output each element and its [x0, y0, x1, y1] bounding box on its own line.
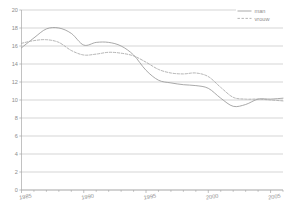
y-tick-label-16: 16	[12, 43, 18, 49]
y-tick-label-12: 12	[12, 79, 18, 85]
x-tick-label-2000: 2000	[206, 193, 219, 201]
y-tick-label-8: 8	[15, 115, 18, 121]
y-tick-label-0: 0	[15, 187, 18, 193]
y-tick-label-6: 6	[15, 133, 18, 139]
y-tick-label-10: 10	[12, 97, 18, 103]
y-tick-labels: 02468101214161820	[12, 7, 18, 193]
legend-label-man: man	[255, 8, 266, 14]
series-line-man	[22, 28, 284, 107]
y-tick-label-18: 18	[12, 25, 18, 31]
data-series	[22, 28, 284, 107]
y-tick-label-14: 14	[12, 61, 18, 67]
x-tick-label-2005: 2005	[268, 193, 281, 201]
series-line-vrouw	[22, 40, 284, 101]
x-tick-labels: 19851990199520002005	[19, 193, 281, 201]
y-tick-label-4: 4	[15, 151, 18, 157]
y-tick-label-2: 2	[15, 169, 18, 175]
x-tick-label-1985: 1985	[19, 193, 32, 201]
chart-legend: manvrouw	[236, 7, 284, 25]
legend-label-vrouw: vrouw	[255, 16, 271, 22]
x-tick-label-1995: 1995	[143, 193, 156, 201]
x-tick-label-1990: 1990	[81, 193, 94, 201]
y-axis	[19, 10, 21, 190]
y-tick-label-20: 20	[12, 7, 18, 13]
line-chart: 02468101214161820 19851990199520002005 m…	[0, 0, 289, 216]
gridlines	[22, 10, 284, 190]
chart-page: 02468101214161820 19851990199520002005 m…	[0, 0, 289, 216]
